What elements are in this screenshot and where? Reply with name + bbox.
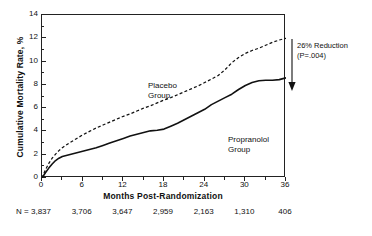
x-axis-tick-label: 30: [231, 181, 257, 189]
x-axis-minor-tick-mark: [265, 177, 266, 180]
x-axis-tick-label: 36: [272, 181, 298, 189]
x-axis-tick-label: 24: [191, 181, 217, 189]
x-axis-tick-label: 0: [28, 181, 54, 189]
x-axis-minor-tick-mark: [143, 177, 144, 180]
y-axis-tick-label: 10: [16, 57, 38, 65]
x-axis-tick-label: 6: [69, 181, 95, 189]
x-axis-tick-label: 18: [150, 181, 176, 189]
reduction-annotation-line1: 26% Reduction: [297, 41, 348, 50]
y-axis-tick-label: 6: [16, 103, 38, 111]
y-axis-tick-label: 14: [16, 10, 38, 18]
at-risk-value: 2,959: [143, 207, 183, 216]
at-risk-value: 3,647: [102, 207, 142, 216]
y-axis-tick-label: 4: [16, 126, 38, 134]
x-axis-minor-tick-mark: [102, 177, 103, 180]
at-risk-value: 2,163: [184, 207, 224, 216]
reduction-annotation-line2: (P=.004): [297, 51, 326, 60]
x-axis-minor-tick-mark: [61, 177, 62, 180]
mortality-chart-figure: Cumulative Mortality Rate, % 02468101214…: [0, 0, 372, 236]
at-risk-value: 3,837: [21, 207, 61, 216]
x-axis-minor-tick-mark: [183, 177, 184, 180]
y-axis-tick-label: 0: [16, 173, 38, 181]
at-risk-value: 3,706: [62, 207, 102, 216]
y-axis-tick-label: 8: [16, 80, 38, 88]
x-axis-minor-tick-mark: [224, 177, 225, 180]
y-axis-tick-labels: 02468101214: [14, 14, 38, 177]
at-risk-row: N = 3,8373,7063,6472,9592,1631,310406: [0, 207, 372, 223]
series-label-propranolol: Propranolol Group: [228, 135, 269, 155]
x-axis-title: Months Post-Randomization: [41, 191, 285, 201]
at-risk-value: 406: [265, 207, 305, 216]
series-label-placebo: Placebo Group: [148, 81, 177, 101]
plot-area: Placebo Group Propranolol Group: [41, 14, 285, 177]
y-axis-tick-label: 2: [16, 150, 38, 158]
x-axis-tick-label: 12: [109, 181, 135, 189]
at-risk-value: 1,310: [224, 207, 264, 216]
reduction-annotation: 26% Reduction(P=.004): [297, 41, 348, 61]
series-line-placebo: [42, 38, 286, 178]
y-axis-tick-label: 12: [16, 33, 38, 41]
